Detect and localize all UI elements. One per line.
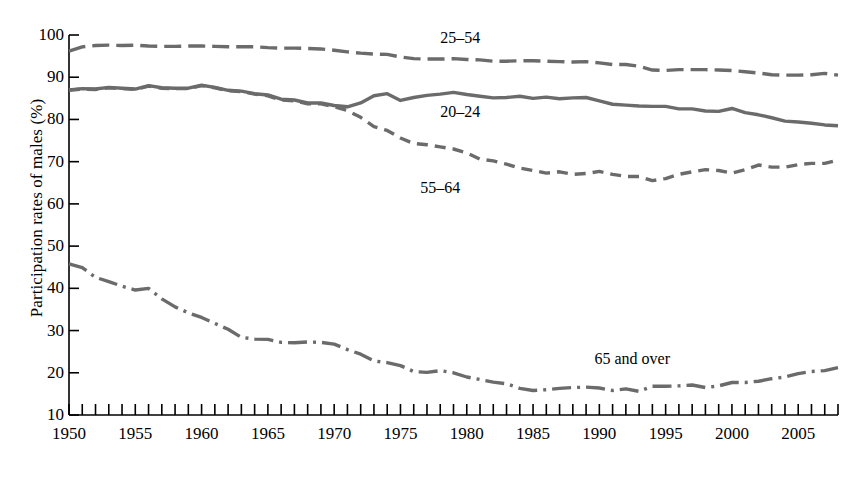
x-tick-label: 1980 (437, 424, 497, 444)
x-tick-label: 1975 (370, 424, 430, 444)
x-tick-label: 1970 (304, 424, 364, 444)
x-tick-label: 1985 (503, 424, 563, 444)
x-tick-label: 1965 (238, 424, 298, 444)
series-line-55-64 (69, 86, 838, 181)
x-tick-label: 1990 (569, 424, 629, 444)
x-tick-label: 1995 (636, 424, 696, 444)
series-line-25-54 (69, 45, 838, 75)
chart-plot-area (0, 0, 856, 479)
series-label-20-24: 20–24 (440, 103, 480, 121)
series-label-25-54: 25–54 (440, 29, 480, 47)
x-tick-label: 1955 (105, 424, 165, 444)
chart-figure: Participation rates of males (%) 1020304… (0, 0, 856, 479)
series-label-65-and-over: 65 and over (594, 350, 670, 368)
x-tick-label: 2005 (768, 424, 828, 444)
series-group (69, 45, 838, 391)
x-tick-label: 1960 (172, 424, 232, 444)
x-tick-label: 1950 (39, 424, 99, 444)
x-axis-ticks (69, 404, 838, 415)
y-axis-ticks (69, 35, 79, 415)
series-label-55-64: 55–64 (420, 179, 460, 197)
x-tick-label: 2000 (702, 424, 762, 444)
series-line-65-and-over (69, 264, 838, 392)
